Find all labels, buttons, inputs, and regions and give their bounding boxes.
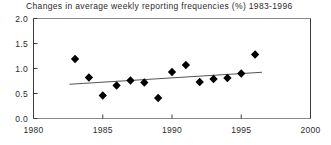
data-point bbox=[141, 79, 147, 85]
data-point bbox=[169, 69, 175, 75]
x-tick-label-2: 1990 bbox=[162, 125, 182, 135]
data-point bbox=[197, 79, 203, 85]
data-point-group bbox=[72, 51, 258, 101]
y-tick-labels: 0.0 0.5 1.0 1.5 2.0 bbox=[15, 14, 28, 124]
x-tick-label-1: 1985 bbox=[93, 125, 113, 135]
y-tick-label-1: 0.5 bbox=[15, 89, 28, 99]
data-point bbox=[224, 75, 230, 81]
y-tick-label-2: 1.0 bbox=[15, 64, 28, 74]
data-point bbox=[210, 76, 216, 82]
data-point bbox=[86, 74, 92, 80]
data-point bbox=[72, 56, 78, 62]
y-tick-label-4: 2.0 bbox=[15, 14, 28, 24]
y-axis-ticks bbox=[34, 19, 38, 119]
x-tick-labels: 1980 1985 1990 1995 2000 bbox=[23, 125, 320, 135]
data-point bbox=[155, 95, 161, 101]
data-point bbox=[238, 70, 244, 76]
scatter-plot: 0.0 0.5 1.0 1.5 2.0 1980 1985 1990 1995 … bbox=[0, 0, 331, 145]
x-axis-ticks bbox=[34, 115, 311, 119]
trend-line bbox=[70, 72, 263, 84]
y-tick-label-0: 0.0 bbox=[15, 114, 28, 124]
x-tick-label-4: 2000 bbox=[300, 125, 320, 135]
data-point bbox=[183, 62, 189, 68]
x-tick-label-0: 1980 bbox=[23, 125, 43, 135]
data-point bbox=[127, 77, 133, 83]
chart-container: Changes in average weekly reporting freq… bbox=[0, 0, 331, 145]
data-point bbox=[252, 51, 258, 57]
data-point bbox=[100, 92, 106, 98]
x-tick-label-3: 1995 bbox=[231, 125, 251, 135]
data-point bbox=[114, 82, 120, 88]
y-tick-label-3: 1.5 bbox=[15, 39, 28, 49]
